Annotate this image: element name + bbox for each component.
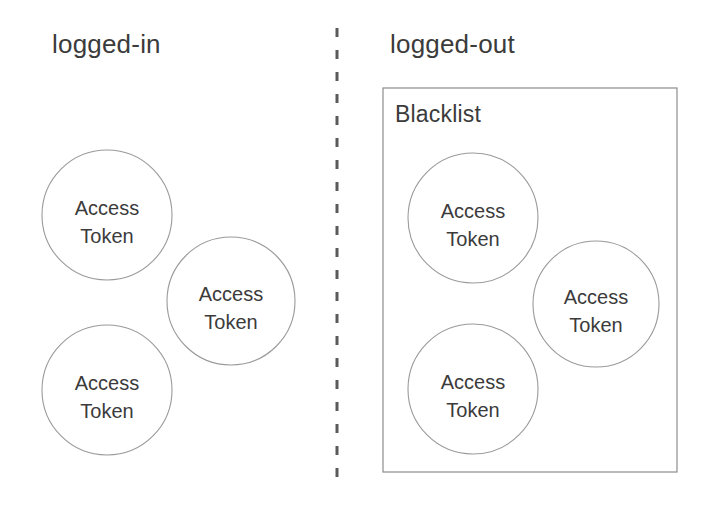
access-token-node: Access Token [167, 237, 295, 365]
logged-in-panel: logged-in Access Token Access Token Acce… [42, 29, 295, 455]
access-token-label-line1: Access [441, 371, 505, 393]
logged-out-panel: logged-out Blacklist Access Token Access… [383, 29, 677, 472]
access-token-label-line1: Access [75, 372, 139, 394]
access-token-label-line2: Token [80, 400, 133, 422]
access-token-label-line2: Token [569, 314, 622, 336]
access-token-label-line1: Access [564, 286, 628, 308]
access-token-label-line1: Access [75, 197, 139, 219]
access-token-node: Access Token [42, 150, 172, 280]
access-token-label-line2: Token [80, 225, 133, 247]
access-token-node: Access Token [408, 153, 538, 283]
logged-out-title: logged-out [390, 29, 515, 59]
access-token-label-line2: Token [446, 228, 499, 250]
access-token-label-line2: Token [204, 311, 257, 333]
logged-in-title: logged-in [52, 29, 161, 59]
access-token-node: Access Token [533, 241, 659, 367]
access-token-label-line1: Access [199, 283, 263, 305]
access-token-label-line1: Access [441, 200, 505, 222]
access-token-node: Access Token [42, 325, 172, 455]
access-token-node: Access Token [408, 324, 538, 454]
blacklist-label: Blacklist [395, 101, 482, 127]
diagram-canvas: logged-in Access Token Access Token Acce… [0, 0, 714, 513]
access-token-label-line2: Token [446, 399, 499, 421]
token-state-diagram: logged-in Access Token Access Token Acce… [0, 0, 714, 513]
